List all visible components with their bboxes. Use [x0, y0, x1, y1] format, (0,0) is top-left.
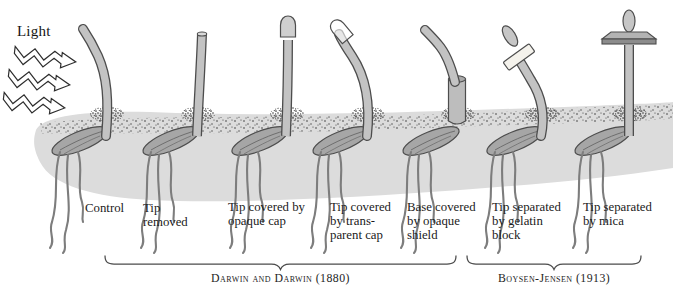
bracket-label-darwin-and-darwin: Darwin and Darwin (1880) [211, 271, 350, 286]
label-control: Control [85, 202, 124, 216]
light-label: Light [17, 23, 51, 40]
light-arrow-icon [13, 46, 77, 70]
light-arrow-icon [7, 69, 71, 93]
separated-tip [623, 10, 635, 32]
era-brace-0 [105, 256, 456, 270]
label-tip-gelatin-block: Tip separated by gelatin block [492, 201, 561, 242]
mica-sheet-top [602, 32, 656, 39]
label-tip-mica: Tip separated by mica [583, 201, 652, 229]
transparent-cap [327, 17, 353, 44]
era-brace-1 [467, 256, 641, 270]
opaque-cap [281, 16, 296, 37]
experiment-illustration [0, 0, 673, 294]
light-arrow-icon [2, 92, 66, 116]
label-tip-transparent-cap: Tip covered by trans- parent cap [330, 201, 391, 242]
label-base-opaque-shield: Base covered by opaque shield [407, 201, 476, 242]
mica-sheet-front [602, 39, 656, 44]
cut-surface [197, 32, 206, 36]
label-tip-opaque-cap: Tip covered by opaque cap [228, 201, 305, 229]
phototropism-experiment-figure: Light Control Tip removed Tip covered by… [0, 0, 673, 294]
label-tip-removed: Tip removed [143, 202, 188, 230]
separated-tip [499, 23, 521, 48]
bracket-label-boysen-jensen: Boysen-Jensen (1913) [498, 271, 610, 286]
